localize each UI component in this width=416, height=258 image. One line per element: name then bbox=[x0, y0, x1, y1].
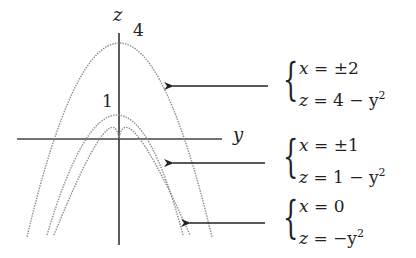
equation-system-middle: { x = ±1 z = 1 − y2 bbox=[283, 135, 386, 187]
equation-system-outer: { x = ±2 z = 4 − y2 bbox=[283, 58, 386, 110]
equation-system-inner: { x = 0 z = −y2 bbox=[283, 196, 364, 248]
brace-icon: { bbox=[283, 135, 292, 187]
equation-x: x = ±2 bbox=[299, 58, 386, 78]
parabola-inner bbox=[54, 127, 190, 235]
brace-icon: { bbox=[283, 196, 292, 248]
equation-z: z = −y2 bbox=[299, 224, 364, 248]
equation-x: x = ±1 bbox=[299, 135, 386, 155]
tick-label-1: 1 bbox=[102, 91, 113, 111]
y-axis-label: y bbox=[233, 124, 243, 145]
z-axis-label: z bbox=[113, 4, 122, 25]
tick-label-4: 4 bbox=[133, 20, 144, 40]
equation-z: z = 1 − y2 bbox=[299, 163, 386, 187]
parabola-middle bbox=[47, 115, 183, 235]
equation-x: x = 0 bbox=[299, 196, 364, 216]
brace-icon: { bbox=[283, 58, 292, 110]
equation-z: z = 4 − y2 bbox=[299, 86, 386, 110]
